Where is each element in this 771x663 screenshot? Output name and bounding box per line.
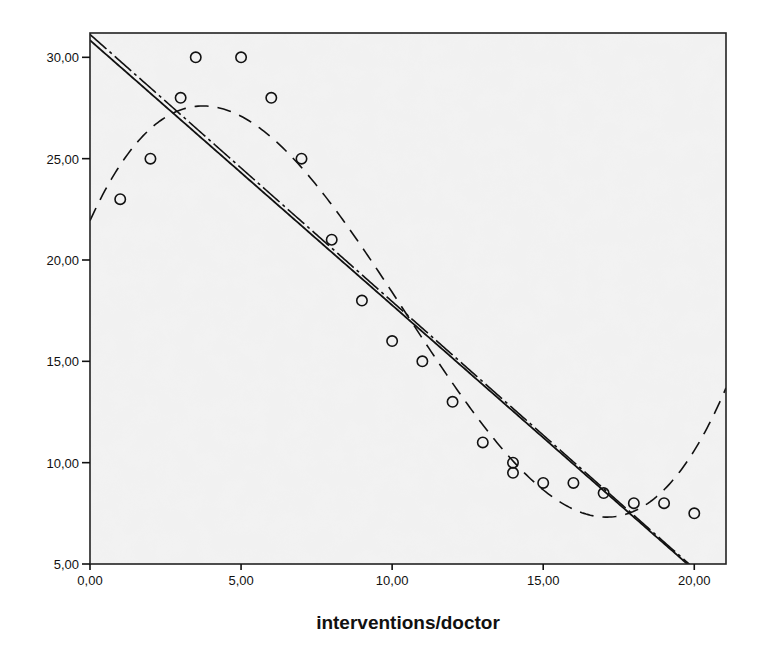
x-axis: 0,005,0010,0015,0020,00: [77, 564, 710, 588]
scatter-chart: 0,005,0010,0015,0020,00 5,0010,0015,0020…: [0, 0, 771, 663]
plot-area-texture: [90, 33, 726, 564]
x-tick-label: 15,00: [527, 573, 560, 588]
y-tick-label: 15,00: [46, 354, 79, 369]
y-tick-label: 30,00: [46, 50, 79, 65]
y-axis: 5,0010,0015,0020,0025,0030,00: [46, 50, 90, 572]
x-tick-label: 10,00: [376, 573, 409, 588]
x-tick-label: 0,00: [77, 573, 102, 588]
x-axis-title: interventions/doctor: [316, 612, 500, 633]
y-tick-label: 20,00: [46, 253, 79, 268]
y-tick-label: 10,00: [46, 456, 79, 471]
y-tick-label: 25,00: [46, 152, 79, 167]
x-tick-label: 5,00: [228, 573, 253, 588]
y-tick-label: 5,00: [54, 557, 79, 572]
x-tick-label: 20,00: [678, 573, 711, 588]
